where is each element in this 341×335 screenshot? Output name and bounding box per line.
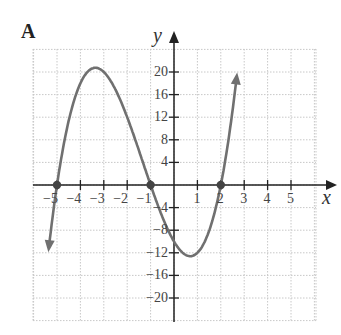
- x-tick-label: 5: [287, 192, 294, 206]
- y-tick-label: 20: [154, 65, 168, 79]
- x-tick-label: 1: [193, 192, 200, 206]
- x-tick-label: −3: [90, 192, 105, 206]
- x-tick-label: −1: [137, 192, 152, 206]
- y-tick-label: −8: [153, 223, 168, 237]
- x-tick-label: 4: [264, 192, 271, 206]
- y-tick-label: 12: [154, 110, 168, 124]
- y-tick-label: 16: [154, 88, 168, 102]
- x-tick-label: −5: [43, 192, 58, 206]
- y-tick-label: −12: [146, 246, 168, 260]
- cubic-function-plot: [0, 0, 341, 335]
- y-tick-label: −16: [146, 268, 168, 282]
- y-tick-label: 4: [161, 155, 168, 169]
- y-tick-label: −20: [146, 291, 168, 305]
- y-tick-label: −4: [153, 201, 168, 215]
- x-tick-label: −2: [113, 192, 128, 206]
- x-tick-label: 2: [217, 192, 224, 206]
- function-curve: [49, 68, 237, 256]
- x-tick-label: −4: [66, 192, 81, 206]
- y-tick-label: 8: [161, 133, 168, 147]
- x-tick-label: 3: [240, 192, 247, 206]
